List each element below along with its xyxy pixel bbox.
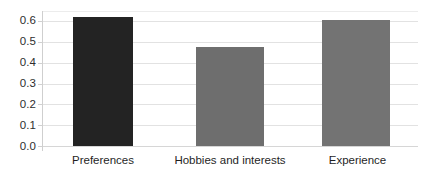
y-tick-label: 0.1 (2, 120, 36, 132)
x-axis-category-label: Experience (300, 154, 415, 167)
y-tick-mark (38, 146, 43, 147)
y-tick-mark (38, 84, 43, 85)
y-tick-mark (38, 63, 43, 64)
y-tick-mark (38, 21, 43, 22)
y-tick-mark (38, 42, 43, 43)
bar (322, 20, 390, 146)
y-tick-label: 0.3 (2, 78, 36, 90)
y-tick-mark (38, 104, 43, 105)
y-tick-label: 0.6 (2, 15, 36, 27)
x-axis-category-label: Hobbies and interests (165, 154, 295, 167)
plot-area (42, 11, 418, 146)
bar (196, 47, 264, 146)
y-tick-label: 0.2 (2, 99, 36, 111)
y-tick-label: 0.0 (2, 141, 36, 153)
y-axis-labels: 0.6 0.5 0.4 0.3 0.2 0.1 0.0 (0, 0, 36, 186)
y-tick-label: 0.4 (2, 57, 36, 69)
y-tick-label: 0.5 (2, 36, 36, 48)
y-tick-mark (38, 125, 43, 126)
bar-chart: 0.6 0.5 0.4 0.3 0.2 0.1 0.0 Preferences … (0, 0, 432, 186)
x-axis-category-label: Preferences (43, 154, 163, 167)
gridline (42, 146, 418, 147)
bar (73, 17, 133, 146)
